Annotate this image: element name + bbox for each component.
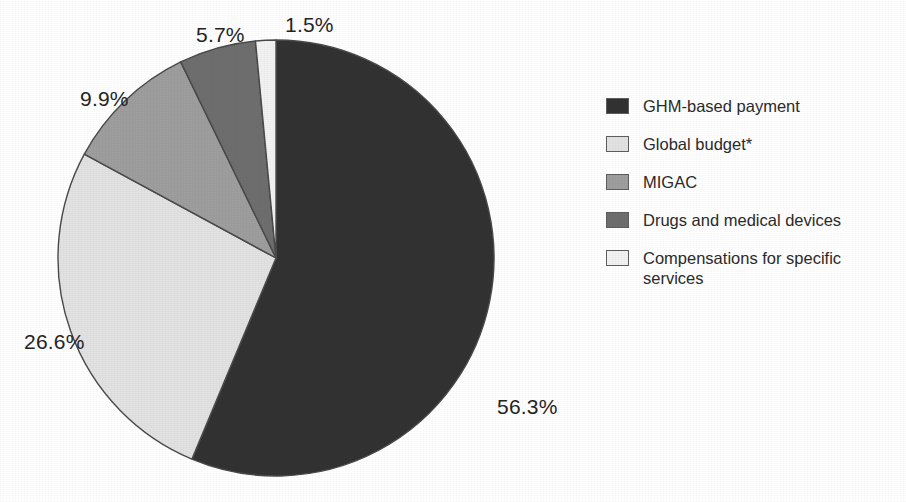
pie-value-label-migac: 9.9% [80,88,129,109]
legend-item-label: Global budget* [643,134,752,154]
legend-item-migac: MIGAC [606,172,906,192]
pie-chart-figure: 56.3% 26.6% 9.9% 5.7% 1.5% GHM-based pay… [0,0,906,502]
pie-svg [0,0,600,502]
legend-swatch-icon [606,174,629,190]
legend-item-compensations-for-specific-services: Compensations for specific services [606,248,906,288]
pie-plot-area: 56.3% 26.6% 9.9% 5.7% 1.5% [0,0,600,502]
legend-item-label: Drugs and medical devices [643,210,841,230]
legend-item-global-budget: Global budget* [606,134,906,154]
legend-swatch-icon [606,136,629,152]
legend-swatch-icon [606,250,629,266]
pie-value-label-ghm-based-payment: 56.3% [497,396,558,417]
legend-item-label: Compensations for specific services [643,248,893,288]
legend-swatch-icon [606,212,629,228]
legend-item-ghm-based-payment: GHM-based payment [606,96,906,116]
pie-value-label-compensations-for-specific-services: 1.5% [285,14,334,35]
legend-swatch-icon [606,98,629,114]
legend-item-drugs-and-medical-devices: Drugs and medical devices [606,210,906,230]
legend-item-label: GHM-based payment [643,96,800,116]
pie-value-label-drugs-and-medical-devices: 5.7% [196,24,245,45]
legend-item-label: MIGAC [643,172,697,192]
pie-value-label-global-budget: 26.6% [24,331,85,352]
chart-legend: GHM-based payment Global budget* MIGAC D… [606,96,906,288]
